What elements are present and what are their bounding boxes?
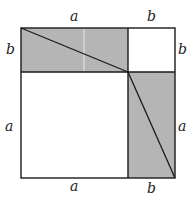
- label-top-a: a: [70, 8, 78, 24]
- label-bottom-b: b: [147, 180, 156, 196]
- label-left-a: a: [5, 118, 13, 134]
- label-right-b: b: [178, 41, 187, 57]
- label-bottom-a: a: [70, 178, 78, 194]
- label-left-b: b: [6, 41, 15, 57]
- diagram-canvas: a b b a b a a b: [0, 0, 196, 205]
- label-right-a: a: [178, 118, 186, 134]
- label-top-b: b: [147, 8, 156, 24]
